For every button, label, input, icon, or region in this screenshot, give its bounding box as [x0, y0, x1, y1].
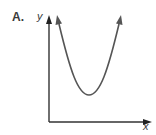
parabola-curve [56, 15, 123, 95]
x-axis [49, 119, 152, 125]
graph [0, 0, 156, 135]
y-axis [46, 15, 52, 122]
x-axis-arrow-icon [143, 119, 152, 125]
y-axis-arrow-icon [46, 15, 52, 24]
curve-left-arrow-icon [56, 15, 63, 25]
curve-right-arrow-icon [116, 15, 123, 25]
